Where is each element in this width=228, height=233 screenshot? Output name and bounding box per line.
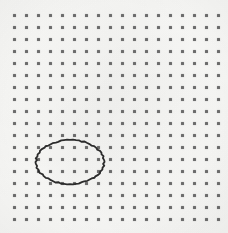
annotation-layer (0, 0, 228, 233)
ellipse-stroke (35, 140, 104, 185)
dot-grid-canvas (0, 0, 228, 233)
ellipse-selection[interactable] (35, 140, 104, 185)
